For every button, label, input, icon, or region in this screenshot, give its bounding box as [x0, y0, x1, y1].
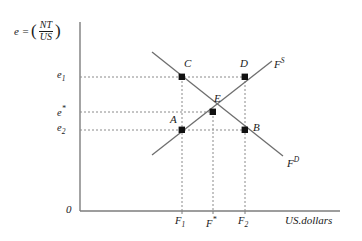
y-tick-label-e1: e1	[57, 70, 65, 83]
x-tick-label-F2: F2	[238, 216, 248, 229]
x-tick-F2-sub: 2	[244, 220, 248, 229]
x-tick-label-Fstar: F*	[206, 216, 216, 229]
figure-canvas: e = ( NT US ) e1 e* e2 0 F1 F* F2 US.dol…	[0, 0, 362, 241]
point-marker-B	[242, 127, 248, 133]
fraction-denominator: US	[39, 32, 53, 43]
supply-label-sup: S	[281, 56, 285, 65]
paren-close: )	[55, 21, 61, 41]
y-tick-e1-sub: 1	[62, 74, 66, 83]
y-tick-label-estar: e*	[57, 105, 66, 118]
point-marker-D	[242, 74, 248, 80]
y-tick-label-e2: e2	[57, 123, 65, 136]
x-tick-label-F1: F1	[175, 216, 185, 229]
y-axis-label: e = ( NT US )	[14, 20, 61, 42]
x-tick-Fstar-sup: *	[212, 215, 216, 224]
y-axis-label-prefix: e =	[14, 25, 29, 37]
point-marker-E	[210, 109, 216, 115]
demand-label-base: F	[287, 157, 294, 169]
y-tick-e2-sub: 2	[62, 127, 66, 136]
y-tick-estar-sup: *	[62, 104, 66, 113]
x-axis-unit-label: US.dollars	[285, 215, 332, 226]
point-label-C: C	[184, 58, 191, 69]
point-marker-A	[179, 127, 185, 133]
x-tick-F1-sub: 1	[181, 220, 185, 229]
supply-curve-label: FS	[274, 57, 284, 70]
point-marker-C	[179, 74, 185, 80]
fraction-numerator: NT	[39, 20, 53, 32]
paren-open: (	[31, 21, 37, 41]
demand-label-sup: D	[294, 155, 299, 164]
point-label-A: A	[170, 114, 177, 125]
supply-label-base: F	[274, 58, 281, 70]
supply-curve	[152, 61, 272, 155]
point-label-D: D	[240, 58, 248, 69]
point-label-E: E	[214, 93, 221, 104]
y-axis-fraction: NT US	[39, 20, 53, 42]
origin-label: 0	[66, 204, 72, 215]
demand-curve-label: FD	[287, 156, 299, 169]
point-label-B: B	[253, 122, 260, 133]
